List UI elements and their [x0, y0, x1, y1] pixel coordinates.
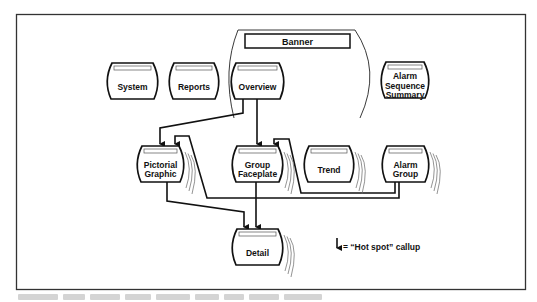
node-label: Detail [246, 248, 269, 258]
node-alarm-sequence-summary[interactable]: AlarmSequenceSummary [381, 62, 429, 100]
node-label: Alarm [393, 160, 418, 170]
edge-overview-to-pictorial-graphic [160, 99, 243, 144]
display-header-bar [388, 65, 422, 69]
multiple-instances-ripple-icon [290, 238, 294, 277]
legend: = “Hot spot” callup [337, 238, 420, 252]
legend-label: = “Hot spot” callup [343, 242, 420, 252]
node-trend[interactable]: Trend [304, 146, 365, 194]
display-header-bar [144, 149, 177, 153]
display-header-bar [389, 149, 422, 153]
node-label: Reports [178, 82, 210, 92]
node-label: Pictorial [144, 160, 178, 170]
display-header-bar [311, 149, 347, 153]
display-header-bar [176, 66, 212, 70]
node-overview[interactable]: Overview [231, 63, 284, 99]
node-alarm-group[interactable]: AlarmGroup [382, 146, 440, 194]
multiple-instances-ripple-icon [191, 155, 195, 194]
edge-alarm-group-to-pictorial-graphic [175, 136, 399, 198]
multiple-instances-ripple-icon [433, 154, 437, 192]
multiple-instances-ripple-icon [188, 154, 192, 192]
node-label: Sequence [385, 81, 425, 91]
node-label: System [117, 82, 148, 92]
node-reports[interactable]: Reports [169, 63, 219, 99]
node-label: Graphic [144, 169, 176, 179]
multiple-instances-ripple-icon [358, 154, 362, 192]
node-label: Alarm [393, 71, 418, 81]
multiple-instances-ripple-icon [430, 152, 434, 188]
display-header-bar [238, 66, 277, 70]
banner-label: Banner [282, 37, 314, 47]
node-label: Summary [386, 90, 425, 100]
node-label: Group [393, 169, 419, 179]
banner-box[interactable]: Banner [245, 34, 350, 48]
edge-pictorial-graphic-to-detail [167, 182, 244, 227]
multiple-instances-ripple-icon [185, 152, 189, 188]
multiple-instances-ripple-icon [287, 237, 291, 275]
node-label: Faceplate [238, 169, 277, 179]
multiple-instances-ripple-icon [284, 152, 288, 188]
node-label: Overview [239, 82, 277, 92]
node-label: Group [245, 160, 271, 170]
figure-caption-illegible [18, 294, 438, 302]
multiple-instances-ripple-icon [436, 155, 440, 194]
display-header-bar [239, 232, 276, 236]
display-header-bar [239, 149, 276, 153]
node-group-faceplate[interactable]: GroupFaceplate [232, 146, 294, 194]
display-header-bar [114, 66, 151, 70]
multiple-instances-ripple-icon [355, 152, 359, 188]
multiple-instances-ripple-icon [287, 154, 291, 192]
node-label: Trend [317, 165, 340, 175]
multiple-instances-ripple-icon [361, 155, 365, 194]
display-hierarchy-diagram: Banner SystemReportsOverviewAlarmSequenc… [0, 0, 537, 302]
node-system[interactable]: System [107, 63, 158, 99]
multiple-instances-ripple-icon [284, 235, 288, 271]
banner-enclosure-right-arc [355, 30, 370, 118]
node-detail[interactable]: Detail [232, 229, 294, 277]
